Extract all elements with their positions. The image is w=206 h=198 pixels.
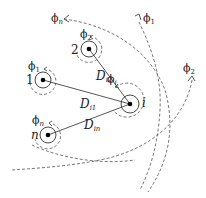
node-2-label: 2 (71, 43, 79, 57)
phase-label-1: ϕ1 (28, 60, 40, 74)
phase-diagram: 1 2 i n ϕ1 ϕ2 ϕi ϕn Di1 Di2 Din ϕn ϕ1 ϕ2 (0, 0, 206, 198)
wavefront-label-n: ϕn (51, 12, 64, 26)
wavefront-label-1: ϕ1 (143, 12, 155, 26)
arrow-phi-2-icon (188, 76, 195, 81)
edge-label-i1: Di1 (79, 97, 96, 112)
wavefront-label-2: ϕ2 (183, 62, 195, 76)
node-1-label: 1 (26, 73, 34, 87)
edge-label-in: Din (83, 118, 101, 133)
arrow-phi-n-icon (64, 15, 69, 22)
node-i-label: i (142, 96, 146, 110)
phase-label-2: ϕ2 (80, 28, 92, 42)
phase-label-n: ϕn (32, 114, 45, 128)
wavefront-lower (32, 145, 135, 162)
arrow-phi-1-icon (135, 14, 141, 20)
node-i (113, 83, 144, 117)
edge-label-i2: Di2 (95, 69, 113, 84)
node-n-label: n (31, 128, 39, 142)
